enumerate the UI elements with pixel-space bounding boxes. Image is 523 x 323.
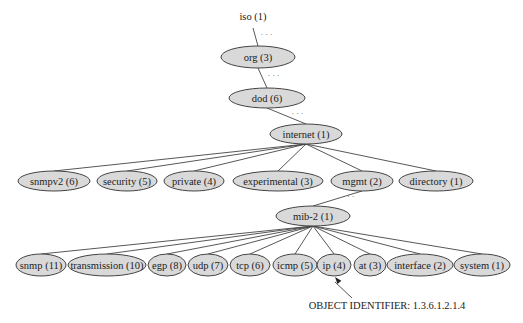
node-org: org (3) bbox=[221, 46, 295, 68]
node-snmpv2: snmpv2 (6) bbox=[18, 171, 90, 191]
node-label: directory (1) bbox=[410, 176, 463, 188]
node-label: snmpv2 (6) bbox=[30, 176, 79, 188]
mib-tree-diagram: · · ·· · ·· · ·· · · iso (1)org (3)dod (… bbox=[0, 0, 523, 323]
node-icmp: icmp (5) bbox=[273, 254, 317, 276]
node-label: icmp (5) bbox=[277, 260, 313, 272]
node-label: internet (1) bbox=[283, 129, 330, 141]
node-mgmt: mgmt (2) bbox=[331, 171, 393, 191]
node-label: private (4) bbox=[172, 176, 217, 188]
object-identifier-label: OBJECT IDENTIFIER: 1.3.6.1.2.1.4 bbox=[309, 300, 466, 311]
node-label: dod (6) bbox=[252, 93, 283, 105]
edge-internet-snmpv2 bbox=[54, 144, 306, 171]
node-label: ip (4) bbox=[322, 260, 346, 272]
elided-levels-marker: · · · bbox=[292, 109, 304, 118]
node-interface: interface (2) bbox=[387, 254, 453, 276]
node-private: private (4) bbox=[164, 171, 224, 191]
node-ip: ip (4) bbox=[317, 254, 351, 276]
node-label: org (3) bbox=[244, 52, 273, 64]
elided-levels-marker: · · · bbox=[343, 192, 355, 201]
edge-internet-experimental bbox=[278, 144, 306, 171]
node-label: experimental (3) bbox=[243, 176, 313, 188]
edge-mgmt-mib2 bbox=[313, 191, 362, 206]
node-label: tcp (6) bbox=[236, 260, 264, 272]
edge-mib2-snmp bbox=[41, 226, 313, 254]
node-label: mgmt (2) bbox=[342, 176, 382, 188]
node-iso: iso (1) bbox=[239, 11, 267, 23]
edge-mib2-interface bbox=[313, 226, 420, 254]
node-udp: udp (7) bbox=[188, 254, 228, 276]
node-label: udp (7) bbox=[193, 260, 224, 272]
node-internet: internet (1) bbox=[270, 124, 342, 144]
annotation-arrow bbox=[335, 282, 352, 298]
node-label: system (1) bbox=[460, 260, 505, 272]
node-directory: directory (1) bbox=[399, 171, 473, 191]
node-security: security (5) bbox=[97, 171, 157, 191]
node-transmission: transmission (10) bbox=[68, 254, 146, 276]
node-dod: dod (6) bbox=[229, 88, 305, 108]
node-egp: egp (8) bbox=[148, 254, 186, 276]
edge-mib2-system bbox=[313, 226, 482, 254]
node-label: mib-2 (1) bbox=[293, 211, 333, 223]
node-snmp: snmp (11) bbox=[16, 254, 66, 276]
node-label: snmp (11) bbox=[20, 260, 63, 272]
node-label: egp (8) bbox=[152, 260, 183, 272]
node-label: security (5) bbox=[103, 176, 152, 188]
edge-org-dod bbox=[258, 68, 267, 88]
edge-internet-private bbox=[194, 144, 306, 171]
node-tcp: tcp (6) bbox=[230, 254, 270, 276]
edge-mib2-egp bbox=[167, 226, 313, 254]
edge-mib2-at bbox=[313, 226, 370, 254]
edge-internet-mgmt bbox=[306, 144, 362, 171]
node-at: at (3) bbox=[354, 254, 386, 276]
edge-iso-org bbox=[253, 28, 258, 46]
edge-internet-directory bbox=[306, 144, 436, 171]
elided-levels-marker: · · · bbox=[268, 71, 280, 80]
edge-internet-security bbox=[127, 144, 306, 171]
node-mib2: mib-2 (1) bbox=[276, 206, 350, 226]
node-experimental: experimental (3) bbox=[233, 171, 323, 191]
elided-levels-marker: · · · bbox=[261, 30, 273, 39]
tree-nodes: iso (1)org (3)dod (6)internet (1)snmpv2 … bbox=[16, 11, 510, 276]
edge-mib2-ip bbox=[313, 226, 334, 254]
node-label: interface (2) bbox=[394, 260, 446, 272]
node-label: transmission (10) bbox=[70, 260, 144, 272]
oid-annotation: OBJECT IDENTIFIER: 1.3.6.1.2.1.4 bbox=[309, 277, 466, 311]
node-system: system (1) bbox=[454, 254, 510, 276]
node-label: at (3) bbox=[359, 260, 382, 272]
